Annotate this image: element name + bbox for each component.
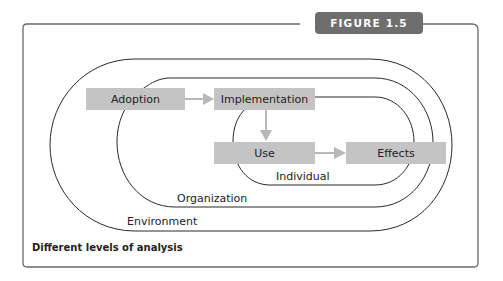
arrow-use-to-effects [315, 147, 346, 159]
level-label-environment: Environment [127, 215, 198, 228]
level-label-organization: Organization [177, 192, 247, 205]
node-adoption-label: Adoption [111, 93, 160, 106]
figure-canvas: FIGURE 1.5 Adoption Implementation Use E… [0, 0, 503, 281]
node-effects: Effects [346, 142, 446, 164]
node-effects-label: Effects [377, 147, 415, 160]
level-label-individual: Individual [276, 170, 330, 183]
node-implementation: Implementation [214, 88, 315, 110]
figure-badge-label: FIGURE 1.5 [330, 17, 408, 29]
arrow-adoption-to-implementation [185, 93, 214, 105]
node-use-label: Use [254, 147, 275, 160]
figure-caption: Different levels of analysis [32, 242, 183, 253]
figure-badge: FIGURE 1.5 [315, 12, 423, 34]
arrow-implementation-to-use [260, 110, 272, 141]
node-implementation-label: Implementation [221, 93, 308, 106]
node-use: Use [214, 142, 315, 164]
node-adoption: Adoption [86, 88, 185, 110]
